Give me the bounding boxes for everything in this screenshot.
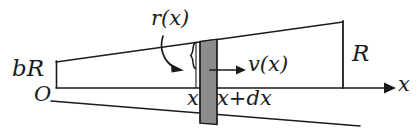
- velocity-label: v(x): [248, 54, 288, 75]
- x-axis-arrowhead: [384, 83, 396, 94]
- origin-label: O: [34, 84, 51, 105]
- callout-arrow-icon: [162, 36, 176, 68]
- inlet-radius-label: bR: [12, 57, 44, 80]
- differential-slice: [200, 39, 217, 124]
- slice-left-position-label: x: [187, 88, 199, 109]
- radius-brace-icon: [191, 43, 196, 69]
- diagram-canvas: [0, 0, 419, 133]
- slice-right-position-label: x+dx: [217, 88, 272, 109]
- local-radius-label: r(x): [151, 8, 189, 29]
- velocity-arrowhead: [236, 66, 246, 75]
- tapered-tube-diagram: bR O r(x) v(x) R x x x+dx: [0, 0, 419, 133]
- outlet-radius-label: R: [352, 42, 369, 65]
- x-axis-label: x: [398, 74, 410, 95]
- callout-arrowhead: [171, 64, 184, 73]
